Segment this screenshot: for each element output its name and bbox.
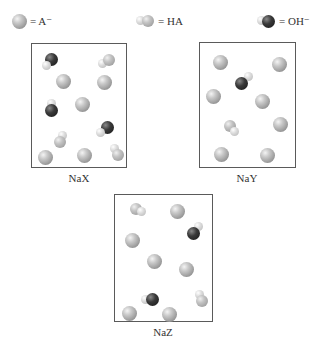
a-minus-ion [97,75,112,90]
a-minus-ion [272,57,287,72]
nax-box [31,43,127,168]
legend-ha: = HA [136,13,183,29]
a-minus-ion [213,55,228,70]
ha-molecule-icon [136,14,155,28]
a-minus-ion [162,307,177,322]
a-minus-ion [122,306,137,321]
a-minus-ion [147,254,162,269]
a-minus-ion [75,97,90,112]
nax-label: NaX [29,172,129,184]
legend-a-minus-label: = A⁻ [30,15,52,28]
a-minus-ion [170,204,185,219]
legend-oh-minus-label: = OH⁻ [279,15,310,28]
a-minus-ion [206,89,221,104]
a-minus-ion [214,147,229,162]
legend-a-minus: = A⁻ [12,13,52,29]
a-minus-ion [260,148,275,163]
oh-minus-molecule-icon [257,14,276,28]
a-minus-ion [125,233,140,248]
a-minus-ion [56,74,71,89]
naz-label: NaZ [113,326,213,338]
legend-oh-minus: = OH⁻ [257,13,310,29]
naz-box [114,194,213,322]
a-minus-ion [38,150,53,165]
nay-box [199,42,296,168]
a-minus-sphere-icon [12,14,27,29]
a-minus-ion [273,117,288,132]
a-minus-ion [255,94,270,109]
a-minus-ion [77,148,92,163]
a-minus-ion [179,262,194,277]
nay-label: NaY [197,172,297,184]
legend-ha-label: = HA [158,15,183,27]
